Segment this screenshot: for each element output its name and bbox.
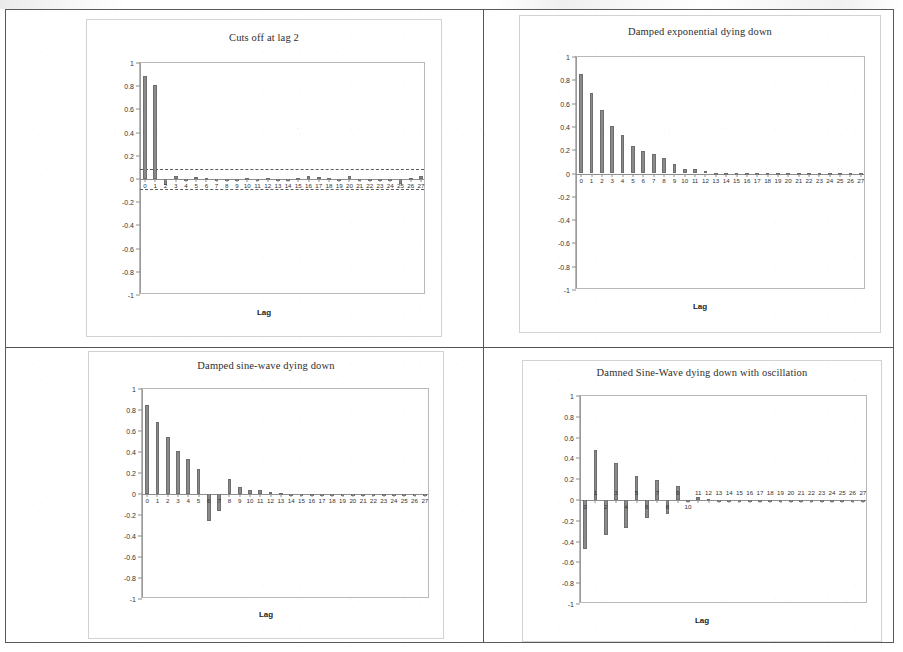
x-tick-mark [739, 500, 740, 503]
x-tick-mark [749, 500, 750, 503]
bar [228, 479, 232, 494]
x-tick-label: 24 [829, 489, 836, 496]
x-tick-label: 3 [174, 182, 177, 189]
x-tick-label: 5 [635, 489, 638, 496]
x-tick-label: 3 [614, 489, 617, 496]
x-tick-mark [801, 500, 802, 503]
plot-area-2: 10.80.60.40.20-0.2-0.4-0.6-0.8-101234567… [141, 388, 429, 598]
x-tick-mark [729, 500, 730, 503]
x-tick-label: 18 [326, 182, 333, 189]
y-axis-line [580, 396, 581, 602]
x-tick-label: 2 [164, 182, 167, 189]
x-tick-label: 7 [652, 177, 655, 184]
x-tick-label: 8 [662, 177, 665, 184]
x-tick-label: 19 [775, 177, 782, 184]
chart-frame-1: Damped exponential dying down 10.80.60.4… [519, 15, 881, 333]
x-tick-mark [708, 500, 709, 503]
x-tick-label: 17 [754, 177, 761, 184]
x-tick-label: 22 [370, 497, 377, 504]
plot-area-0: 10.80.60.40.20-0.2-0.4-0.6-0.8-101234567… [139, 62, 425, 294]
x-tick-label: 27 [417, 182, 424, 189]
x-tick-mark [770, 500, 771, 503]
bar [579, 74, 583, 173]
bar [156, 422, 160, 494]
x-tick-mark [852, 500, 853, 503]
x-tick-mark [842, 500, 843, 503]
x-tick-label: 24 [391, 497, 398, 504]
x-tick-mark [595, 500, 596, 503]
bar [153, 85, 157, 179]
bar [176, 451, 180, 494]
x-tick-label: 4 [625, 503, 628, 510]
x-tick-mark [862, 500, 863, 503]
x-tick-label: 10 [244, 182, 251, 189]
bar [197, 469, 201, 494]
chart-title-0: Cuts off at lag 2 [87, 32, 441, 43]
x-tick-label: 14 [726, 489, 733, 496]
y-axis-line [576, 57, 577, 288]
x-tick-label: 2 [166, 497, 169, 504]
y-tick-mark [576, 604, 580, 605]
bar [238, 487, 242, 494]
x-tick-label: 14 [285, 182, 292, 189]
x-tick-label: 9 [235, 182, 238, 189]
plot-area-3: 10.80.60.40.20-0.2-0.4-0.6-0.8-101234567… [579, 395, 867, 603]
confidence-limit-line [140, 169, 424, 170]
plot-area-1: 10.80.60.40.20-0.2-0.4-0.6-0.8-101234567… [575, 56, 865, 289]
x-axis-label-3: Lag [523, 616, 881, 625]
x-tick-label: 6 [642, 177, 645, 184]
x-tick-label: 21 [795, 177, 802, 184]
x-tick-label: 26 [407, 182, 414, 189]
x-tick-label: 20 [787, 489, 794, 496]
x-tick-label: 22 [806, 177, 813, 184]
x-tick-mark [657, 500, 658, 503]
x-tick-label: 18 [764, 177, 771, 184]
x-tick-label: 2 [604, 503, 607, 510]
x-tick-label: 16 [305, 182, 312, 189]
x-tick-label: 17 [319, 497, 326, 504]
x-axis-label-0: Lag [87, 308, 441, 317]
x-tick-label: 1 [156, 497, 159, 504]
x-tick-label: 7 [215, 182, 218, 189]
chart-frame-0: Cuts off at lag 2 10.80.60.40.20-0.2-0.4… [86, 19, 442, 337]
x-tick-mark [821, 500, 822, 503]
x-tick-label: 11 [257, 497, 263, 504]
x-axis-label-2: Lag [89, 610, 443, 619]
x-tick-label: 11 [695, 489, 701, 496]
x-tick-label: 26 [411, 497, 418, 504]
x-tick-label: 8 [228, 497, 231, 504]
bar [662, 158, 666, 174]
x-tick-label: 13 [712, 177, 719, 184]
x-tick-label: 9 [673, 177, 676, 184]
x-tick-label: 20 [349, 497, 356, 504]
bar [621, 135, 625, 173]
bar [600, 110, 604, 173]
x-tick-mark [811, 500, 812, 503]
x-tick-label: 17 [315, 182, 322, 189]
panel-damped-sine-wave: Damped sine-wave dying down 10.80.60.40.… [6, 348, 484, 642]
bar [610, 126, 614, 174]
bar [143, 76, 147, 179]
x-tick-label: 13 [277, 497, 284, 504]
x-tick-label: 15 [295, 182, 302, 189]
x-tick-label: 0 [145, 497, 148, 504]
chart-title-1: Damped exponential dying down [520, 26, 880, 37]
x-tick-label: 4 [621, 177, 624, 184]
x-tick-label: 17 [757, 489, 764, 496]
x-tick-label: 16 [746, 489, 753, 496]
x-tick-label: 22 [808, 489, 815, 496]
panel-damped-sine-wave-oscillation: Damned Sine-Wave dying down with oscilla… [484, 348, 893, 642]
x-tick-label: 9 [676, 489, 679, 496]
bar [652, 154, 656, 174]
x-tick-label: 27 [859, 489, 866, 496]
x-tick-label: 1 [154, 182, 157, 189]
bar [145, 405, 149, 494]
x-tick-label: 22 [366, 182, 373, 189]
x-tick-label: 8 [666, 503, 669, 510]
x-tick-label: 5 [631, 177, 634, 184]
x-tick-label: 21 [360, 497, 367, 504]
chart-title-3: Damned Sine-Wave dying down with oscilla… [523, 367, 881, 378]
x-tick-label: 25 [837, 177, 844, 184]
x-tick-label: 26 [849, 489, 856, 496]
confidence-limit-line [140, 189, 424, 190]
